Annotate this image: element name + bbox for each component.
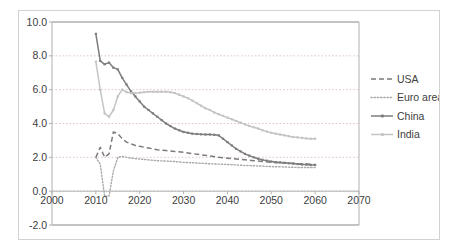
y-tick-label: -2.0	[29, 219, 47, 231]
series-marker-china	[226, 141, 228, 143]
series-marker-china	[99, 60, 101, 62]
series-marker-china	[270, 160, 272, 162]
series-marker-india	[222, 115, 224, 117]
series-marker-india	[288, 135, 290, 137]
series-marker-china	[253, 156, 255, 158]
legend-marker-china	[381, 115, 384, 118]
series-marker-china	[283, 162, 285, 164]
series-marker-china	[279, 161, 281, 163]
series-marker-china	[187, 132, 189, 134]
y-tick-label: 4.0	[32, 117, 47, 129]
series-marker-china	[156, 116, 158, 118]
series-marker-india	[310, 138, 312, 140]
series-marker-china	[292, 162, 294, 164]
legend-item-euro-area: Euro area	[371, 91, 439, 103]
legend-label-china: China	[397, 110, 425, 122]
series-marker-india	[134, 92, 136, 94]
series-marker-china	[117, 68, 119, 70]
series-marker-india	[121, 89, 123, 91]
series-marker-china	[301, 163, 303, 165]
series-marker-china	[104, 63, 106, 65]
x-axis-tick-labels: 20002010202020302040205020602070	[40, 191, 371, 206]
y-tick-label: 8.0	[32, 49, 47, 61]
series-marker-china	[222, 138, 224, 140]
series-marker-china	[275, 161, 277, 163]
series-marker-india	[266, 131, 268, 133]
series-marker-china	[191, 133, 193, 135]
x-tick-label: 2060	[303, 194, 327, 206]
x-tick-label: 2040	[216, 194, 240, 206]
series-marker-china	[235, 148, 237, 150]
legend-label-usa: USA	[397, 73, 419, 85]
series-marker-china	[147, 109, 149, 111]
series-marker-india	[231, 118, 233, 120]
series-marker-india	[226, 116, 228, 118]
legend-label-india: India	[397, 128, 420, 140]
legend-label-euro-area: Euro area	[397, 91, 439, 103]
series-marker-china	[169, 125, 171, 127]
series-marker-india	[297, 136, 299, 138]
y-tick-label: 6.0	[32, 83, 47, 95]
series-marker-india	[305, 137, 307, 139]
series-marker-china	[209, 133, 211, 135]
series-marker-china	[257, 158, 259, 160]
series-marker-china	[239, 150, 241, 152]
series-marker-india	[213, 111, 215, 113]
series-marker-india	[239, 122, 241, 124]
chart-legend: USAEuro areaChinaIndia	[371, 73, 439, 141]
series-marker-india	[169, 91, 171, 93]
legend-marker-india	[381, 133, 384, 136]
series-marker-india	[292, 136, 294, 138]
series-marker-china	[213, 134, 215, 136]
series-marker-china	[134, 95, 136, 97]
series-marker-india	[279, 133, 281, 135]
series-marker-india	[218, 113, 220, 115]
series-marker-india	[314, 138, 316, 140]
series-marker-india	[235, 120, 237, 122]
series-marker-india	[130, 92, 132, 94]
series-marker-india	[112, 109, 114, 111]
series-marker-china	[108, 62, 110, 64]
series-marker-india	[209, 109, 211, 111]
series-line-usa	[96, 132, 315, 164]
series-marker-india	[143, 91, 145, 93]
series-marker-china	[125, 83, 127, 85]
series-marker-india	[95, 61, 97, 63]
series-marker-india	[261, 129, 263, 131]
series-marker-india	[139, 92, 141, 94]
series-marker-india	[147, 91, 149, 93]
series-marker-china	[218, 134, 220, 136]
series-marker-india	[117, 95, 119, 97]
x-tick-label: 2000	[40, 194, 64, 206]
series-marker-india	[99, 89, 101, 91]
series-marker-india	[257, 127, 259, 129]
series-marker-india	[104, 112, 106, 114]
x-tick-label: 2010	[84, 194, 108, 206]
series-marker-india	[178, 94, 180, 96]
series-marker-india	[301, 137, 303, 139]
series-marker-china	[314, 164, 316, 166]
series-marker-india	[253, 126, 255, 128]
series-marker-china	[248, 155, 250, 157]
series-marker-india	[204, 107, 206, 109]
series-marker-china	[112, 67, 114, 69]
series-marker-china	[165, 122, 167, 124]
series-marker-china	[310, 164, 312, 166]
series-marker-china	[121, 77, 123, 79]
legend-item-china: China	[371, 110, 425, 122]
series-line-china	[96, 34, 315, 165]
series-marker-china	[231, 144, 233, 146]
series-marker-india	[152, 91, 154, 93]
series-marker-china	[139, 100, 141, 102]
series-marker-india	[248, 125, 250, 127]
series-marker-china	[161, 119, 163, 121]
series-marker-india	[283, 134, 285, 136]
series-marker-china	[244, 153, 246, 155]
series-marker-india	[165, 91, 167, 93]
series-marker-china	[204, 133, 206, 135]
y-tick-label: 2.0	[32, 151, 47, 163]
y-tick-label: 10.0	[27, 16, 48, 28]
series-marker-china	[297, 163, 299, 165]
series-marker-china	[174, 127, 176, 129]
series-marker-india	[200, 105, 202, 107]
